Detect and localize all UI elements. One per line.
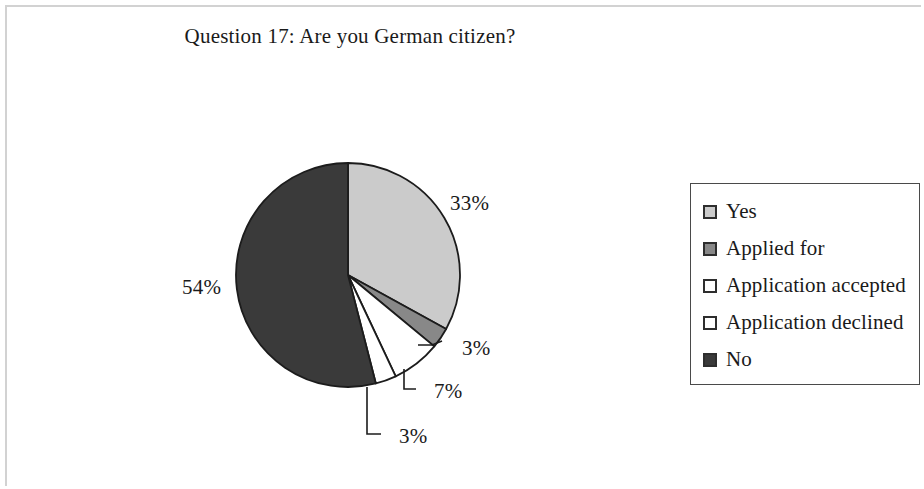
legend-item-label: Applied for [726, 236, 825, 261]
legend-item-label: Application accepted [726, 273, 906, 298]
legend-swatch-icon [703, 353, 717, 367]
pie-graphic [0, 0, 700, 489]
legend-swatch-icon [703, 242, 717, 256]
legend-item-label: Application declined [726, 310, 904, 335]
legend-item-label: Yes [726, 199, 757, 224]
legend-swatch-icon [703, 205, 717, 219]
legend-swatch-icon [703, 279, 717, 293]
legend-item-label: No [726, 347, 752, 372]
pie-chart-figure: Question 17: Are you German citizen? 33%… [0, 0, 924, 489]
data-label-applied-for: 3% [462, 336, 491, 361]
legend-item-applied-for[interactable]: Applied for [703, 230, 919, 267]
data-label-no: 54% [182, 275, 221, 300]
legend-item-no[interactable]: No [703, 341, 919, 378]
legend-swatch-icon [703, 316, 717, 330]
data-label-application-accepted: 7% [434, 379, 463, 404]
legend-item-application-accepted[interactable]: Application accepted [703, 267, 919, 304]
pie-plot-area: 33% 3% 7% 3% 54% [0, 0, 700, 489]
data-label-yes: 33% [450, 191, 489, 216]
chart-legend: YesApplied forApplication acceptedApplic… [690, 183, 920, 385]
legend-item-yes[interactable]: Yes [703, 193, 919, 230]
data-label-application-declined: 3% [399, 424, 428, 449]
pie-slice-group [236, 163, 460, 387]
leader-line-application-declined [367, 387, 381, 434]
legend-item-application-declined[interactable]: Application declined [703, 304, 919, 341]
